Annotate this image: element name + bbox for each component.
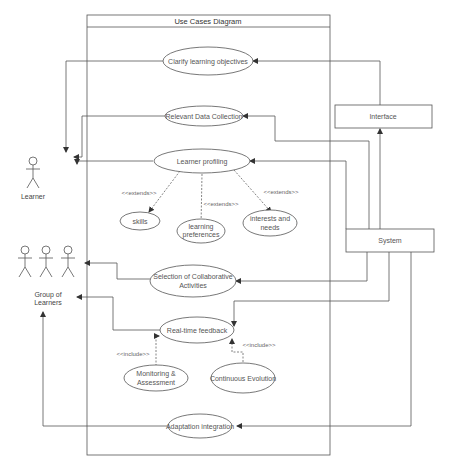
use-case-skills[interactable]: skills [120,212,160,230]
actor-group-of-learners[interactable]: Group of Learners [18,246,75,306]
use-case-diagram: Use Cases Diagram Learner [0,0,450,466]
stick-figure-icon [18,246,32,277]
diagram-title: Use Cases Diagram [174,17,241,26]
use-case-learning-preferences[interactable]: learning preferences [177,219,225,243]
use-case-interests-and-needs[interactable]: interests and needs [243,210,297,236]
interface-label: Interface [369,113,396,120]
group-label-line2: Learners [34,299,62,306]
stick-figure-icon [61,246,75,277]
svg-text:skills: skills [132,218,148,225]
svg-text:Monitoring &: Monitoring & [136,370,176,378]
system-label: System [378,237,402,245]
learner-label: Learner [21,193,46,200]
svg-text:preferences: preferences [183,231,220,239]
svg-text:interests and: interests and [250,215,290,222]
use-case-learner-profiling[interactable]: Learner profiling [154,149,250,173]
stick-figure-icon [26,157,40,188]
svg-text:Assessment: Assessment [137,379,175,386]
stereotype-include-evolution: <<include>> [242,342,276,348]
use-case-clarify-learning-objectives[interactable]: Clarify learning objectives [163,47,253,75]
use-case-selection-of-collaborative-activities[interactable]: Selection of Collaborative Activities [150,265,236,297]
svg-text:Real-time feedback: Real-time feedback [167,327,228,334]
stereotype-extends-interests: <<extends>> [263,189,299,195]
svg-text:needs: needs [260,224,280,231]
use-case-monitoring-and-assessment[interactable]: Monitoring & Assessment [124,365,188,391]
svg-text:learning: learning [189,223,214,231]
svg-text:Activities: Activities [179,282,207,289]
use-case-continuous-evolution[interactable]: Continuous Evolution [210,363,276,393]
stereotype-include-monitoring: <<include>> [116,351,150,357]
stereotype-extends-preferences: <<extends>> [203,201,239,207]
stereotype-extends-skills: <<extends>> [121,190,157,196]
svg-text:Clarify learning objectives: Clarify learning objectives [168,58,248,66]
use-case-adaptation-integration[interactable]: Adaptation integration [166,414,234,438]
system-box[interactable]: System [346,229,434,252]
stick-figure-icon [39,246,53,277]
interface-box[interactable]: Interface [335,105,432,128]
group-label-line1: Group of [34,291,61,299]
svg-text:Relevant Data Collection: Relevant Data Collection [165,113,242,120]
svg-text:Selection of Collaborative: Selection of Collaborative [153,273,232,280]
use-case-relevant-data-collection[interactable]: Relevant Data Collection [165,106,243,126]
actor-learner[interactable]: Learner [21,157,46,200]
svg-text:Adaptation integration: Adaptation integration [166,423,234,431]
svg-text:Learner profiling: Learner profiling [177,158,228,166]
use-case-real-time-feedback[interactable]: Real-time feedback [160,317,234,343]
svg-text:Continuous Evolution: Continuous Evolution [210,375,276,382]
